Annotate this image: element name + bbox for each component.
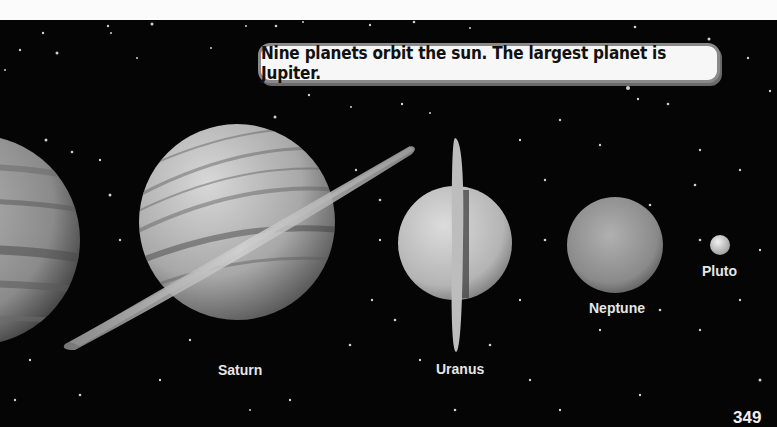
page-number: 349 — [733, 408, 761, 427]
callout-box: Nine planets orbit the sun. The largest … — [258, 43, 720, 83]
top-margin — [0, 0, 777, 20]
space-illustration: Nine planets orbit the sun. The largest … — [0, 20, 777, 427]
planet-label-pluto: Pluto — [702, 263, 737, 279]
callout-text: Nine planets orbit the sun. The largest … — [261, 43, 717, 83]
planet-label-saturn: Saturn — [218, 362, 262, 378]
planet-label-neptune: Neptune — [589, 300, 645, 316]
planet-label-uranus: Uranus — [436, 361, 484, 377]
uranus-planet — [398, 138, 512, 352]
jupiter-planet — [0, 135, 80, 345]
saturn-planet — [64, 124, 415, 350]
neptune-planet — [567, 197, 663, 293]
pluto-planet — [710, 235, 730, 255]
